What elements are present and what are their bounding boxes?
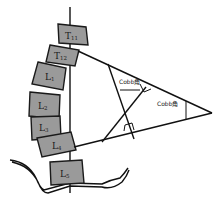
vertebra-l2: L2 bbox=[29, 92, 60, 119]
vertebra-l5: L5 bbox=[50, 160, 84, 185]
cobb-angle-diagram: T11 T12 L1 L2 L3 L4 L5 Cobb角 Cob bbox=[0, 0, 219, 201]
lower-perpendicular bbox=[102, 87, 146, 142]
cobb-angle-label-inner: Cobb角 bbox=[119, 78, 140, 86]
vertebra-l1: L1 bbox=[32, 62, 66, 90]
vertebra-t11: T11 bbox=[58, 24, 88, 45]
upper-endplate-line bbox=[78, 51, 212, 113]
cobb-angle-label-outer: Cobb角 bbox=[157, 100, 178, 108]
lower-endplate-line bbox=[74, 113, 212, 147]
right-angle-marker-lower bbox=[124, 123, 134, 131]
vertebra-t12: T12 bbox=[46, 45, 79, 66]
